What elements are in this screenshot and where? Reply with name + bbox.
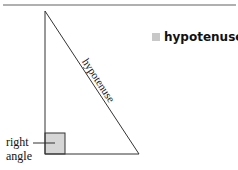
right-angle-label-line1: right [6,135,32,149]
right-angle-label: right angle [6,135,32,163]
legend-swatch [152,33,160,41]
legend-label: hypotenuse [164,30,238,44]
triangle-diagram [0,0,238,170]
legend: hypotenuse [152,30,238,44]
right-angle-label-line2: angle [6,149,32,163]
